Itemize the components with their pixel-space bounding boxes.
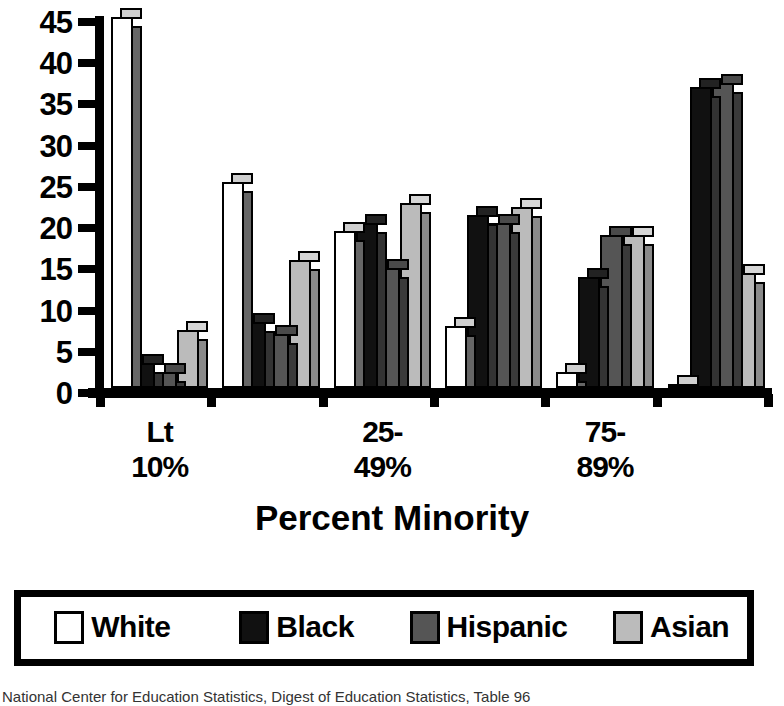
bar-top-face	[632, 226, 654, 237]
y-tick-mark	[78, 183, 95, 191]
bar-front-face	[111, 17, 133, 388]
bar-top-face	[498, 214, 520, 225]
y-tick-mark	[78, 224, 95, 232]
x-tick-mark	[319, 394, 328, 407]
bar-side-face	[197, 339, 208, 388]
bar-group	[438, 16, 549, 388]
legend-label: Hispanic	[447, 610, 568, 644]
bars-layer	[0, 0, 784, 412]
bar-top-face	[699, 78, 721, 89]
bar-top-face	[609, 226, 631, 237]
y-tick-mark	[78, 389, 95, 397]
plot-area: 454035302520151050	[0, 0, 784, 412]
bar-front-face	[556, 372, 578, 388]
bar-asian-group1	[177, 330, 199, 388]
bar-front-face	[222, 182, 244, 388]
bar-top-face	[743, 264, 765, 275]
legend-label: Black	[276, 610, 354, 644]
bar-side-face	[465, 335, 476, 388]
bar-group	[215, 16, 326, 388]
bar-side-face	[354, 240, 365, 388]
x-tick-mark	[430, 394, 439, 407]
bar-front-face	[690, 87, 712, 388]
bar-side-face	[287, 343, 298, 388]
bar-group	[327, 16, 438, 388]
bar-top-face	[343, 222, 365, 233]
bar-top-face	[387, 259, 409, 270]
x-tick-mark	[96, 394, 105, 407]
bar-group	[104, 16, 215, 388]
bar-side-face	[242, 191, 253, 388]
x-axis-category-labels: Lt 10%25- 49%75- 89%	[0, 414, 784, 494]
bar-top-face	[120, 8, 142, 19]
bar-top-face	[721, 74, 743, 85]
bar-top-face	[298, 251, 320, 262]
legend-item-black[interactable]: Black	[239, 610, 354, 644]
bar-top-face	[476, 206, 498, 217]
bar-chart-figure: 454035302520151050 Lt 10%25- 49%75- 89% …	[0, 0, 784, 706]
legend-item-white[interactable]: White	[54, 610, 170, 644]
bar-top-face	[186, 321, 208, 332]
bar-side-face	[376, 232, 387, 388]
y-tick-mark	[78, 265, 95, 273]
x-tick-mark	[764, 394, 773, 407]
bar-white-group2	[222, 182, 244, 388]
x-category-label: Lt 10%	[104, 414, 215, 485]
bar-side-face	[621, 244, 632, 388]
bar-top-face	[565, 363, 587, 374]
bar-group	[661, 16, 772, 388]
x-category-label: 75- 89%	[549, 414, 660, 485]
y-tick-mark	[78, 307, 95, 315]
bar-top-face	[587, 268, 609, 279]
legend-swatch-asian	[613, 611, 643, 644]
legend-swatch-black	[239, 611, 269, 644]
bar-side-face	[131, 26, 142, 388]
bar-front-face	[334, 231, 356, 388]
bar-side-face	[710, 96, 721, 388]
bar-top-face	[142, 354, 164, 365]
legend-swatch-white	[54, 611, 84, 644]
bar-top-face	[275, 325, 297, 336]
bar-side-face	[420, 212, 431, 389]
x-category-label: 25- 49%	[327, 414, 438, 485]
source-note: National Center for Education Statistics…	[2, 688, 782, 706]
bar-side-face	[754, 282, 765, 388]
bar-top-face	[677, 375, 699, 386]
chart-legend: WhiteBlackHispanicAsian	[14, 590, 754, 666]
y-tick-mark	[78, 348, 95, 356]
legend-item-asian[interactable]: Asian	[613, 610, 729, 644]
bar-side-face	[531, 216, 542, 388]
bar-white-group6	[668, 384, 690, 388]
x-axis-title: Percent Minority	[0, 498, 784, 538]
bar-top-face	[253, 313, 275, 324]
bar-side-face	[732, 92, 743, 388]
bar-side-face	[264, 331, 275, 388]
x-tick-mark	[207, 394, 216, 407]
bar-front-face	[177, 330, 199, 388]
bar-side-face	[175, 381, 186, 388]
bar-white-group5	[556, 372, 578, 388]
bar-group	[549, 16, 660, 388]
bar-top-face	[231, 173, 253, 184]
bar-top-face	[520, 198, 542, 209]
bar-black-group6	[690, 87, 712, 388]
bar-side-face	[487, 224, 498, 388]
y-tick-mark	[78, 142, 95, 150]
legend-item-hispanic[interactable]: Hispanic	[410, 610, 568, 644]
y-tick-mark	[78, 100, 95, 108]
legend-label: Asian	[650, 610, 729, 644]
bar-side-face	[598, 286, 609, 388]
bar-side-face	[643, 244, 654, 388]
bar-top-face	[454, 317, 476, 328]
bar-side-face	[309, 269, 320, 388]
bar-white-group3	[334, 231, 356, 388]
bar-white-group4	[445, 326, 467, 388]
y-tick-mark	[78, 59, 95, 67]
x-tick-mark	[541, 394, 550, 407]
y-tick-mark	[78, 18, 95, 26]
bar-front-face	[445, 326, 467, 388]
bar-side-face	[153, 372, 164, 388]
legend-label: White	[91, 610, 170, 644]
bar-white-group1	[111, 17, 133, 388]
legend-swatch-hispanic	[410, 611, 440, 644]
